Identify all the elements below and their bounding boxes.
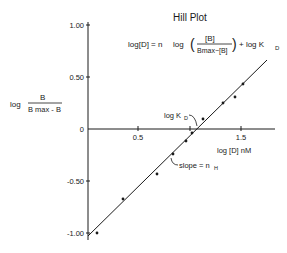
- y-tick-label: -0.50: [67, 177, 84, 186]
- equation-paren-open: (: [190, 36, 195, 52]
- equation-rhs-sub: D: [275, 45, 280, 51]
- x-axis-label: log [D] nM: [217, 146, 251, 155]
- data-point: [191, 132, 194, 135]
- slope-sub: H: [214, 165, 218, 171]
- y-tick-label: 1.00: [69, 21, 84, 30]
- data-point: [172, 153, 175, 156]
- equation-paren-close: ): [232, 36, 237, 52]
- data-point: [156, 173, 159, 176]
- x-tick-label: 1.5: [236, 133, 246, 142]
- equation-lhs: log[D] = n: [128, 40, 162, 49]
- equation-rhs: + log K: [239, 40, 265, 49]
- equation-denominator: Bmax−[B]: [197, 47, 228, 55]
- x-tick-label: 0.5: [133, 133, 143, 142]
- y-tick-label: 0: [80, 125, 84, 134]
- y-label-denominator: B max - B: [28, 105, 61, 114]
- slope-pointer: [171, 158, 178, 165]
- chart-title: Hill Plot: [173, 12, 207, 23]
- slope-annotation: slope = n H: [171, 158, 218, 171]
- y-ticks: 1.00 0.50 0 -0.50 -1.00: [67, 21, 90, 238]
- data-point: [222, 102, 225, 105]
- equation-numerator: [B]: [205, 34, 215, 43]
- x-label-text: log [D] nM: [217, 146, 251, 155]
- y-label-numerator: B: [40, 93, 45, 102]
- hill-equation: log[D] = n log ( [B] Bmax−[B] ) + log K …: [128, 34, 280, 55]
- hill-plot-chart: Hill Plot log[D] = n log ( [B] Bmax−[B] …: [0, 0, 287, 253]
- data-point: [202, 118, 205, 121]
- log-kd-pointer: [189, 115, 197, 126]
- data-point: [122, 198, 125, 201]
- data-point: [96, 232, 99, 235]
- y-tick-label: 0.50: [69, 73, 84, 82]
- log-kd-sub: D: [184, 115, 188, 121]
- data-point: [242, 83, 245, 86]
- data-point: [234, 96, 237, 99]
- y-axis-label: log B B max - B: [10, 93, 62, 114]
- data-points: [96, 83, 245, 235]
- log-kd-annotation: log K D: [164, 111, 197, 126]
- equation-log: log: [173, 40, 184, 49]
- y-tick-label: -1.00: [67, 229, 84, 238]
- data-point: [185, 140, 188, 143]
- x-ticks: 0.5 1.5: [133, 126, 246, 142]
- slope-text: slope = n: [179, 161, 210, 170]
- log-kd-text: log K: [164, 111, 181, 120]
- y-label-prefix: log: [10, 100, 21, 109]
